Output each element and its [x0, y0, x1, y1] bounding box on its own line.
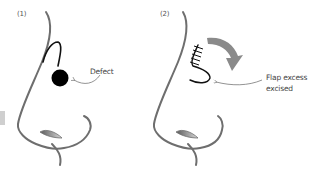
- panel-2-label: (2): [160, 10, 169, 18]
- defect-annotation: Defect: [90, 67, 114, 77]
- excess-leader-line: [216, 80, 262, 85]
- nose-flap-diagram: (1) Defect (2) Flap excess excised: [0, 0, 319, 173]
- panel-2-nose: [154, 12, 223, 165]
- panel-2-sutured-flap: [190, 45, 210, 83]
- panel-1-nose: [18, 12, 91, 165]
- flap-excess-annotation-line1: Flap excess: [266, 73, 307, 83]
- panel-1-label: (1): [17, 10, 26, 18]
- defect-circle: [52, 70, 69, 87]
- flap-excess-annotation-line2: excised: [266, 84, 293, 94]
- rotation-arrow-icon: [207, 38, 243, 71]
- panel-1-flap-outline: [43, 42, 61, 66]
